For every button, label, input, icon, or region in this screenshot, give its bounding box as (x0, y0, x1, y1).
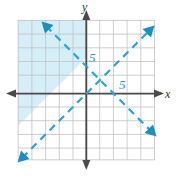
graph-figure: 5 5 x y (0, 0, 177, 177)
y-axis-tick-label-5: 5 (89, 50, 96, 65)
x-axis-tick-label-5: 5 (119, 77, 126, 92)
y-axis-label: y (81, 0, 88, 14)
x-axis-label: x (164, 87, 171, 101)
solution-region-shading (18, 20, 86, 126)
coordinate-plane-svg: 5 5 x y (0, 0, 177, 177)
